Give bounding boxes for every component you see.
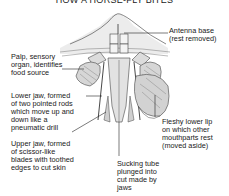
label-fleshy-lower-lip: Fleshy lower lip on which other mouthpar…	[162, 118, 213, 150]
label-palp: Palp, sensory organ, identifies food sou…	[11, 53, 63, 77]
label-upper-jaw: Upper jaw, formed of scissor-like blades…	[11, 140, 74, 172]
label-sucking-tube: Sucking tube plunged into cut made by ja…	[117, 160, 159, 192]
label-lower-jaw: Lower jaw, formed of two pointed rods wh…	[11, 92, 74, 132]
label-antenna-base: Antenna base (rest removed)	[169, 27, 216, 43]
